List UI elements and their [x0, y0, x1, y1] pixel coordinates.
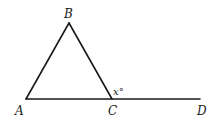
triangle-diagram: A B C D x° — [0, 0, 217, 120]
label-b: B — [63, 7, 73, 21]
segment-bc — [69, 23, 112, 99]
segment-ab — [26, 23, 69, 99]
angle-label-x: x° — [113, 86, 124, 97]
label-d: D — [196, 104, 207, 118]
label-a: A — [14, 104, 24, 118]
label-c: C — [108, 104, 117, 118]
